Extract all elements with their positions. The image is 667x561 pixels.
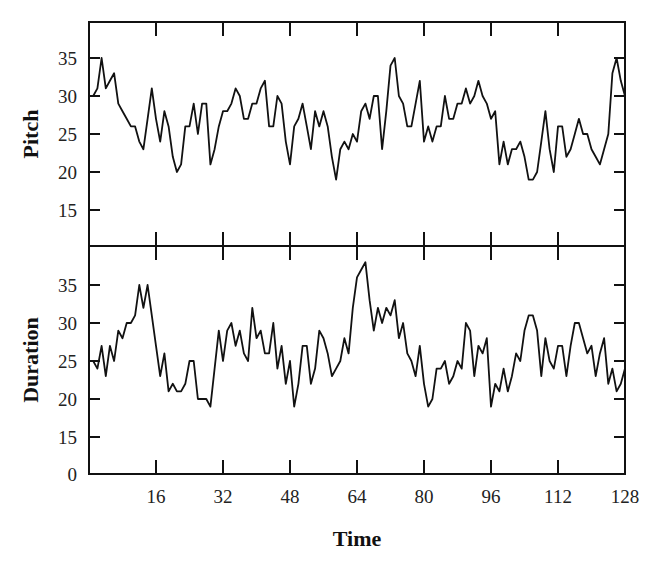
y-tick-label: 15 [58, 427, 77, 448]
y-tick-label: 15 [58, 200, 77, 221]
y-tick-label: 20 [58, 389, 77, 410]
x-tick-label: 16 [147, 486, 166, 507]
y-tick-label: 30 [58, 313, 77, 334]
duration-y-title: Duration [18, 317, 43, 403]
y-tick-label: 25 [58, 124, 77, 145]
y-tick-label: 35 [58, 275, 77, 296]
x-tick-label: 80 [415, 486, 434, 507]
x-axis-title: Time [333, 526, 382, 551]
pitch-panel: 3530252015 Pitch [18, 22, 625, 246]
x-tick-label: 128 [611, 486, 640, 507]
y-tick-label: 20 [58, 162, 77, 183]
x-tick-label: 112 [544, 486, 572, 507]
x-tick-label: 96 [482, 486, 501, 507]
pitch-y-title: Pitch [18, 110, 43, 159]
duration-panel: 35302520150 Duration [18, 246, 625, 485]
figure: 3530252015 Pitch 35302520150 Duration 16… [0, 0, 667, 561]
y-tick-label: 25 [58, 351, 77, 372]
y-tick-label: 0 [68, 464, 78, 485]
x-tick-labels: 163248648096112128 [147, 486, 640, 507]
x-tick-label: 32 [214, 486, 233, 507]
x-tick-label: 48 [281, 486, 300, 507]
y-tick-label: 30 [58, 86, 77, 107]
y-tick-label: 35 [58, 48, 77, 69]
pitch-y-ticks: 3530252015 [58, 48, 625, 221]
x-tick-label: 64 [348, 486, 368, 507]
pitch-series-line [89, 58, 625, 180]
duration-series-line [89, 262, 625, 406]
